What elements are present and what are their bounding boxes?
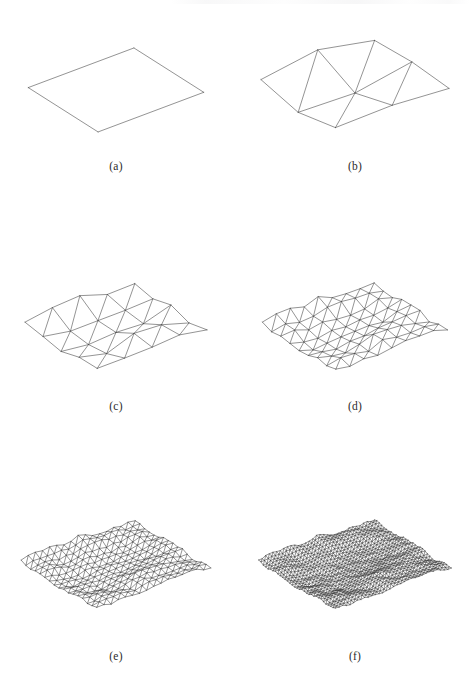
panel-e: (e) xyxy=(0,486,232,672)
panel-label-b: (b) xyxy=(236,160,474,172)
panel-canvas-d xyxy=(236,252,474,400)
terrain-wireframe-d xyxy=(236,252,474,400)
panel-canvas-a xyxy=(0,12,232,162)
terrain-wireframe-b xyxy=(236,12,474,162)
figure-root: (a)(b)(c)(d)(e)(f) xyxy=(0,0,474,679)
terrain-wireframe-c xyxy=(0,252,232,400)
terrain-wireframe-a xyxy=(0,12,232,162)
panel-f: (f) xyxy=(236,486,474,672)
scan-artifact-top xyxy=(170,0,470,4)
panel-canvas-e xyxy=(0,486,232,644)
panel-label-d: (d) xyxy=(236,400,474,412)
panel-canvas-c xyxy=(0,252,232,400)
terrain-wireframe-f xyxy=(236,486,474,644)
panel-canvas-f xyxy=(236,486,474,644)
panel-b: (b) xyxy=(236,12,474,182)
panel-label-c: (c) xyxy=(0,400,232,412)
panel-label-e: (e) xyxy=(0,650,232,662)
panel-canvas-b xyxy=(236,12,474,162)
terrain-wireframe-e xyxy=(0,486,232,644)
panel-a: (a) xyxy=(0,12,232,182)
panel-d: (d) xyxy=(236,252,474,422)
panel-label-f: (f) xyxy=(236,650,474,662)
panel-c: (c) xyxy=(0,252,232,422)
panel-label-a: (a) xyxy=(0,160,232,172)
